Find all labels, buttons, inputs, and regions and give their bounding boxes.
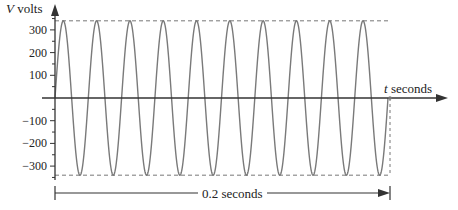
y-tick-label: 100 (7, 69, 47, 81)
y-axis-variable: V (6, 1, 14, 16)
y-tick-label: 300 (7, 24, 47, 36)
y-axis-label: V volts (6, 2, 43, 15)
voltage-sine-chart (0, 0, 458, 210)
x-axis-variable: t (384, 81, 388, 96)
x-axis-arrow-icon (436, 94, 448, 102)
duration-label: 0.2 seconds (198, 187, 267, 200)
y-tick-label: −200 (7, 137, 47, 149)
y-axis (50, 4, 59, 180)
x-axis-label: t seconds (384, 82, 432, 95)
y-axis-arrow-icon (51, 4, 59, 16)
y-tick-label: 200 (7, 47, 47, 59)
y-axis-unit: volts (17, 1, 42, 16)
y-tick-label: −300 (7, 160, 47, 172)
y-tick-label: −100 (7, 115, 47, 127)
duration-arrow-head-icon (378, 189, 390, 197)
x-axis-unit: seconds (391, 81, 432, 96)
